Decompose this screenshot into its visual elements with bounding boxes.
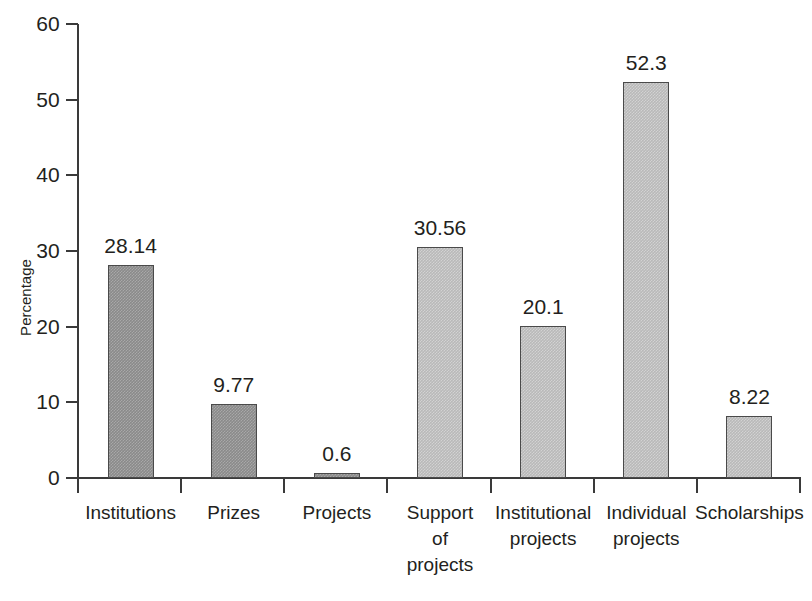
bar-value-label: 28.14 [76,235,186,256]
y-axis-tick-label: 50 [14,89,60,110]
x-axis-tick [593,479,595,493]
x-axis-tick [283,479,285,493]
bar[interactable] [520,326,566,478]
bar[interactable] [417,247,463,478]
category-label-line: of [384,526,495,552]
bar[interactable] [108,265,154,478]
bar-value-label: 0.6 [282,443,392,464]
x-axis-tick [696,479,698,493]
x-axis-category-label: Institutions [75,500,186,526]
category-label-line: Prizes [178,500,289,526]
x-axis-tick [490,479,492,493]
y-axis-tick-label: 0 [14,467,60,488]
category-label-line: Institutional [488,500,599,526]
x-axis-category-label: Prizes [178,500,289,526]
y-axis-tick-label: 20 [14,316,60,337]
bar-value-label: 30.56 [385,217,495,238]
category-label-line: Support [384,500,495,526]
bar[interactable] [726,416,772,478]
x-axis-tick [386,479,388,493]
category-label-line: projects [384,552,495,578]
bar[interactable] [314,473,360,478]
y-axis-tick-label: 30 [14,240,60,261]
x-axis-tick [180,479,182,493]
category-label-line: Institutions [75,500,186,526]
x-axis-category-label: Individualprojects [591,500,702,552]
category-label-line: Projects [281,500,392,526]
bar[interactable] [211,404,257,478]
x-axis-tick [77,479,79,493]
y-axis-tick-label: 60 [14,13,60,34]
category-label-line: Scholarships [694,500,805,526]
plot-area [79,24,801,478]
x-axis-tick [799,479,801,493]
bar[interactable] [623,82,669,478]
bar-chart-figure: Percentage 0102030405060 28.149.770.630.… [0,0,812,601]
x-axis-category-label: Scholarships [694,500,805,526]
bar-value-label: 52.3 [591,52,701,73]
category-label-line: projects [591,526,702,552]
bar-value-label: 8.22 [694,386,804,407]
bar-value-label: 20.1 [488,296,598,317]
x-axis-category-label: Projects [281,500,392,526]
x-axis-category-label: Institutionalprojects [488,500,599,552]
x-axis-category-label: Supportofprojects [384,500,495,578]
y-axis-tick-label: 40 [14,164,60,185]
bar-value-label: 9.77 [179,374,289,395]
y-axis-tick-label: 10 [14,391,60,412]
category-label-line: Individual [591,500,702,526]
category-label-line: projects [488,526,599,552]
